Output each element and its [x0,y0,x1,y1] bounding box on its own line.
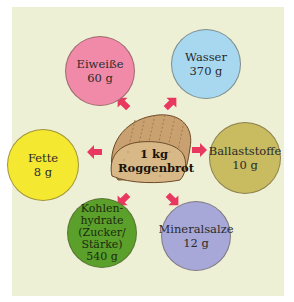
component-wasser: Wasser 370 g [171,29,241,99]
center-amount: 1 kg [118,147,190,161]
component-kohlenhydrate: Kohlen- hydrate (Zucker/ Stärke) 540 g [67,198,137,268]
component-amount: 8 g [34,165,52,179]
component-amount: 60 g [87,71,113,85]
component-ballaststoffe: Ballaststoffe 10 g [209,122,281,194]
component-name: Ballaststoffe [209,144,281,158]
component-name: Mineralsalze [159,222,234,236]
component-amount: 370 g [190,64,223,78]
component-amount: 540 g [86,251,118,263]
center-name: Roggenbrot [118,161,190,175]
component-name: Wasser [185,50,227,64]
component-eiweisse: Eiweiße 60 g [65,36,135,106]
component-amount: 10 g [232,158,258,172]
component-fette: Fette 8 g [7,129,79,201]
arrow-to-fette-icon [87,145,102,159]
center-label: 1 kg Roggenbrot [118,147,190,175]
component-mineralsalze: Mineralsalze 12 g [161,201,231,271]
component-name: Fette [28,151,58,165]
component-amount: 12 g [183,236,209,250]
arrow-to-ballaststoffe-icon [192,143,207,157]
arrow-to-wasser-icon [161,93,182,114]
component-name: Eiweiße [77,57,124,71]
